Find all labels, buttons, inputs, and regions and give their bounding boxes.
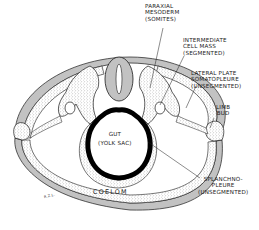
label-lateral-plate-somatopleure: LATERAL PLATE SOMATOPLEURE (UNSEGMENTED) — [191, 70, 241, 89]
label-limb-bud: LIMB BUD — [216, 104, 230, 117]
label-intermediate-cell-mass: INTERMEDIATE CELL MASS (SEGMENTED) — [183, 37, 227, 56]
label-splanchnopleure: SPLANCHNO- PLEURE (UNSEGMENTED) — [198, 176, 248, 195]
label-coelom: COELOM — [93, 189, 128, 195]
label-paraxial-mesoderm: PARAXIAL MESODERM (SOMITES) — [145, 3, 179, 22]
leader-splanchnopleure — [148, 142, 200, 178]
label-gut-yolk-sac: GUT (YOLK SAC) — [98, 131, 132, 147]
limb-bud-left — [14, 123, 30, 140]
neural-tube — [105, 57, 133, 101]
limb-bud-right — [206, 121, 224, 141]
